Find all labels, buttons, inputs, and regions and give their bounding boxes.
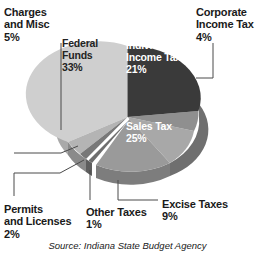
slice-label-sales-tax: Sales Tax 25%	[126, 121, 172, 145]
pie-chart: Charges and Misc 5% Corporate Income Tax…	[0, 0, 255, 255]
slice-label-excise-taxes: Excise Taxes 9%	[162, 198, 228, 223]
leader-corporate-income-tax	[196, 43, 213, 78]
slice-label-individual-income-tax: Individual Income Tax 21%	[126, 40, 181, 75]
slice-label-federal-funds: Federal Funds 33%	[62, 38, 98, 73]
slice-label-charges-and-misc: Charges and Misc 5%	[4, 6, 49, 43]
slice-label-corporate-income-tax: Corporate Income Tax 4%	[196, 6, 254, 43]
slice-label-permits-and-licenses: Permits and Licenses 2%	[4, 203, 71, 240]
slice-label-other-taxes: Other Taxes 1%	[86, 206, 147, 231]
chart-source-note: Source: Indiana State Budget Agency	[0, 240, 255, 251]
leader-permits-and-licenses	[14, 160, 84, 196]
